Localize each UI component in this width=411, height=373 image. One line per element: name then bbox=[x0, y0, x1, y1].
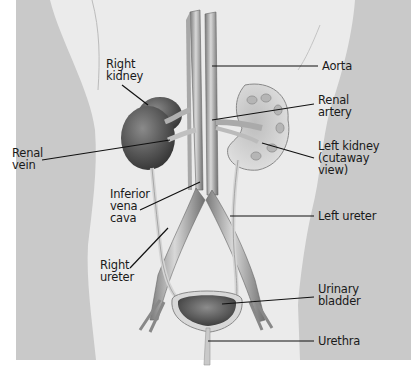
label-renal-artery: Renal artery bbox=[318, 94, 352, 118]
label-left-ureter: Left ureter bbox=[318, 210, 376, 222]
label-right-ureter: Right ureter bbox=[100, 259, 134, 283]
anatomy-illustration bbox=[0, 0, 411, 373]
label-right-kidney: Right kidney bbox=[106, 58, 143, 82]
label-aorta: Aorta bbox=[322, 60, 352, 72]
label-renal-vein: Renal vein bbox=[12, 147, 43, 171]
label-inferior-vena-cava: Inferior vena cava bbox=[110, 188, 150, 224]
label-left-kidney: Left kidney (cutaway view) bbox=[318, 140, 379, 176]
urinary-system-diagram: Right kidney Aorta Renal artery Renal ve… bbox=[0, 0, 411, 373]
label-urinary-bladder: Urinary bladder bbox=[318, 283, 361, 307]
aorta-vessel bbox=[205, 12, 218, 195]
label-urethra: Urethra bbox=[318, 335, 360, 347]
